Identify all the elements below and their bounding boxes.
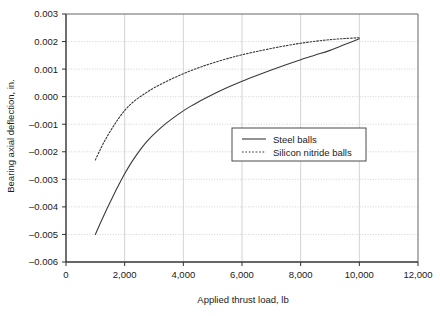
x-axis-tick-label: 0 (63, 269, 68, 280)
y-axis-tick-label: 0.003 (34, 8, 58, 19)
x-axis-tick-label: 12,000 (403, 269, 432, 280)
y-axis-tick-label: 0.000 (34, 91, 58, 102)
y-axis-tick-label: 0.002 (34, 36, 58, 47)
y-axis-tick-label: 0.001 (34, 64, 58, 75)
chart-legend[interactable]: Steel ballsSilicon nitride balls (232, 128, 366, 161)
y-axis-tick-label: –0.003 (29, 174, 58, 185)
x-axis-title: Applied thrust load, lb (197, 294, 288, 305)
y-axis-tick-label: –0.004 (29, 201, 58, 212)
y-axis-title: Bearing axial deflection, in. (5, 79, 16, 193)
y-axis-tick-label: –0.006 (29, 256, 58, 267)
x-axis-tick-label: 6,000 (230, 269, 254, 280)
y-axis-tick-label: –0.001 (29, 119, 58, 130)
legend-label-silicon-nitride-balls: Silicon nitride balls (273, 147, 352, 158)
x-axis-tick-label: 8,000 (289, 269, 313, 280)
line-chart: 0.0030.0020.0010.000–0.001–0.002–0.003–0… (0, 0, 440, 316)
y-axis-tick-label: –0.005 (29, 229, 58, 240)
x-axis-tick-label: 2,000 (113, 269, 137, 280)
y-axis-tick-label: –0.002 (29, 146, 58, 157)
x-axis-tick-label: 10,000 (345, 269, 374, 280)
x-axis-tick-label: 4,000 (171, 269, 195, 280)
legend-label-steel-balls: Steel balls (273, 134, 317, 145)
chart-figure: 0.0030.0020.0010.000–0.001–0.002–0.003–0… (0, 0, 440, 316)
